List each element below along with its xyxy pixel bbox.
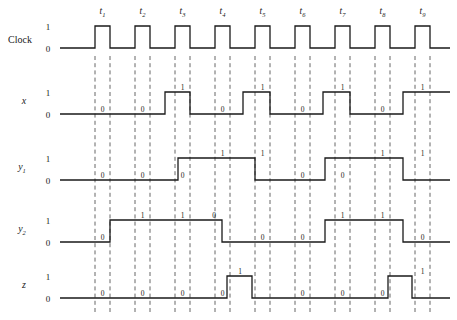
time-label-t8: t8 [380,6,387,18]
time-label-t6: t6 [300,6,307,18]
bit-value-x-t3: 1 [181,83,185,92]
level-high-y2: 1 [46,216,51,226]
time-label-t9: t9 [420,6,427,18]
bit-value-z-t4: 0 [221,289,225,298]
bit-value-z-t3: 0 [181,289,185,298]
bit-value-y1-t7: 0 [341,171,345,180]
time-label-t2: t2 [140,6,147,18]
clock-level-low: 0 [46,44,51,54]
level-low-z: 0 [46,294,51,304]
bit-value-x-t6: 0 [301,105,305,114]
time-label-t7: t7 [340,6,347,18]
bit-value-y2-t3: 1 [181,211,185,220]
clock-edge-dashed-guides [95,56,430,312]
bit-value-z-t8: 0 [381,289,385,298]
time-label-t5: t5 [260,6,267,18]
clock-waveform [60,26,450,48]
bit-value-z-t2: 0 [141,289,145,298]
bit-value-y1-t9: 1 [421,149,425,158]
bit-value-z-t5: 1 [238,267,242,276]
signal-label-z: z [21,279,26,290]
bit-value-x-t4: 0 [221,105,225,114]
bit-value-z-t6: 0 [301,289,305,298]
level-high-x: 1 [46,88,51,98]
signal-label-y2: y2 [17,223,26,236]
level-low-y1: 0 [46,176,51,186]
bit-value-y1-t1: 0 [101,171,105,180]
bit-value-x-t5: 1 [261,83,265,92]
diagram-text-layer: t1t2t3t4t5t6t7t8t9Clock10x10001010101y11… [8,6,426,304]
bit-value-y1-t2: 0 [141,171,145,180]
timing-diagram-figure: t1t2t3t4t5t6t7t8t9Clock10x10001010101y11… [0,0,457,320]
bit-value-y1-t8: 1 [381,149,385,158]
bit-value-z-t1: 0 [101,289,105,298]
bit-value-y2-t6: 0 [301,233,305,242]
signal-label-y1: y1 [17,161,26,174]
bit-value-y2-t7: 1 [341,211,345,220]
bit-value-y2-t8: 1 [381,211,385,220]
bit-value-x-t8: 0 [381,105,385,114]
bit-value-z-t9: 1 [421,267,425,276]
time-label-t4: t4 [220,6,227,18]
clock-level-high: 1 [46,22,51,32]
bit-value-x-t9: 1 [421,83,425,92]
bit-value-y2-t9: 0 [421,233,425,242]
bit-value-y2-t5: 0 [261,233,265,242]
bit-value-y1-t6: 0 [301,171,305,180]
time-label-t1: t1 [100,6,106,18]
bit-value-x-t1: 0 [101,105,105,114]
signal-label-clock: Clock [8,34,32,45]
waveform-y1 [60,158,450,180]
level-high-z: 1 [46,272,51,282]
bit-value-x-t2: 0 [141,105,145,114]
bit-value-y1-t3: 0 [181,171,185,180]
bit-value-y2-t2: 1 [141,211,145,220]
time-label-t3: t3 [180,6,187,18]
level-low-x: 0 [46,110,51,120]
timing-diagram-canvas: t1t2t3t4t5t6t7t8t9Clock10x10001010101y11… [0,0,457,320]
bit-value-y1-t5: 1 [261,149,265,158]
bit-value-y1-t4: 1 [221,149,225,158]
level-low-y2: 0 [46,238,51,248]
bit-value-y2-t1: 0 [101,233,105,242]
bit-value-y2-t4: 0 [212,211,216,220]
bit-value-x-t7: 1 [341,83,345,92]
bit-value-z-t7: 0 [341,289,345,298]
level-high-y1: 1 [46,154,51,164]
signal-label-x: x [21,95,27,106]
